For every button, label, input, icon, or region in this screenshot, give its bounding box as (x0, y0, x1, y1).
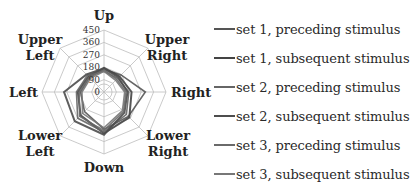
axis-label-upper-right: UpperRight (145, 32, 190, 63)
legend-item: set 3, subsequent stimulus (214, 166, 409, 182)
radial-tick-label: 90 (89, 75, 101, 85)
radial-tick-label: 450 (83, 25, 100, 35)
axis-label-down: Down (84, 160, 125, 175)
legend-label: set 1, preceding stimulus (236, 22, 400, 37)
legend-item: set 2, subsequent stimulus (214, 108, 409, 124)
axis-labels: UpUpperRightRightLowerRightDownLowerLeft… (9, 8, 211, 175)
legend-item: set 1, subsequent stimulus (214, 50, 409, 66)
radar-series (64, 68, 145, 135)
legend-label: set 2, subsequent stimulus (236, 109, 409, 124)
legend-swatch (214, 144, 235, 146)
radial-tick-label: 180 (83, 62, 100, 72)
legend-item: set 1, preceding stimulus (214, 21, 400, 37)
axis-label-left: Left (9, 85, 38, 100)
legend-swatch (214, 173, 235, 175)
radial-tick-label: 0 (94, 87, 100, 97)
legend-swatch (214, 28, 235, 30)
axis-label-up: Up (94, 8, 114, 23)
axis-label-right: Right (171, 85, 211, 100)
legend-label: set 3, subsequent stimulus (236, 167, 409, 182)
legend-item: set 3, preceding stimulus (214, 137, 400, 153)
radial-tick-label: 270 (83, 50, 100, 60)
axis-label-lower-right: LowerRight (146, 128, 190, 159)
radial-tick-label: 360 (83, 37, 100, 47)
legend-swatch (214, 86, 235, 88)
legend-item: set 2, preceding stimulus (214, 79, 400, 95)
axis-label-lower-left: LowerLeft (18, 128, 62, 159)
legend-label: set 1, subsequent stimulus (236, 51, 409, 66)
legend-label: set 3, preceding stimulus (236, 138, 400, 153)
legend-swatch (214, 115, 235, 117)
legend-label: set 2, preceding stimulus (236, 80, 400, 95)
legend-swatch (214, 57, 235, 59)
